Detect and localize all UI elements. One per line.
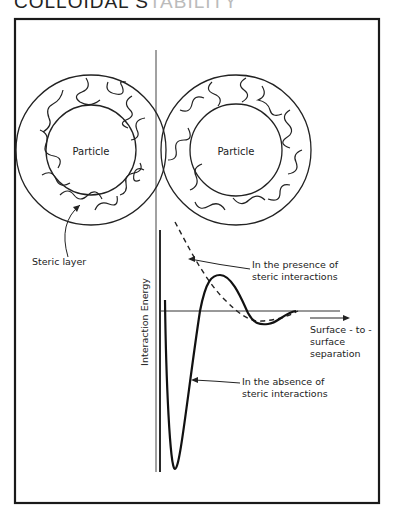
arrowhead-icon — [188, 256, 195, 262]
x-axis-label: Surface - to - surface separation — [310, 324, 375, 359]
particle-label-right: Particle — [218, 146, 255, 157]
y-axis-label: Interaction Energy — [139, 278, 150, 366]
steric-layer-label: Steric layer — [32, 256, 86, 267]
particle-right: Particle — [161, 75, 311, 225]
particle-left: Particle — [16, 75, 166, 225]
arrow-right-icon — [343, 315, 350, 321]
arrowhead-icon — [191, 377, 198, 383]
absence-label: In the absence of steric interactions — [242, 376, 328, 399]
absence-leader — [194, 380, 240, 383]
curve-without-steric — [165, 275, 296, 469]
particle-label-left: Particle — [73, 146, 110, 157]
presence-leader — [190, 259, 250, 269]
polymer-chains — [40, 78, 145, 210]
steric-stabilization-diagram: Particle Particle Steric layer Interacti… — [0, 0, 393, 517]
presence-label: In the presence of steric interactions — [252, 259, 341, 282]
steric-layer-leader — [65, 205, 80, 257]
